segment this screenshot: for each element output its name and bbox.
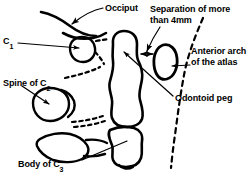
prevertebral-dashes-mid [65, 67, 100, 78]
label-odontoid-peg: Odontoid peg [175, 93, 232, 103]
label-separation-line2: than 4mm [150, 15, 192, 25]
leader-odontoid [124, 52, 173, 96]
leader-anterior-arch [172, 65, 190, 66]
cervical-spine-illustration [0, 0, 249, 181]
label-anterior-arch-line1: Anterior arch [191, 46, 246, 56]
label-c1: C1 [3, 36, 13, 46]
c2-spinous-process [33, 88, 75, 121]
label-spine-c2-subscript: 2 [47, 85, 51, 92]
label-anterior-arch: Anterior arch of the atlas [191, 46, 249, 68]
label-body-c3-text: Body of C [18, 159, 60, 169]
label-separation-line1: Separation of more [150, 4, 230, 14]
label-spine-c2: Spine of C2 [3, 78, 50, 88]
label-body-c3: Body of C3 [18, 159, 63, 169]
label-odontoid-peg-text: Odontoid peg [175, 93, 232, 103]
label-occiput-text: Occiput [105, 3, 138, 13]
prevertebral-dashes-lower [72, 116, 105, 127]
occiput-outline [41, 12, 106, 39]
figure-canvas: Occiput C1 Separation of more than 4mm A… [0, 0, 249, 181]
label-spine-c2-text: Spine of C [3, 78, 47, 88]
label-occiput: Occiput [105, 3, 138, 13]
anterior-arch-of-atlas [154, 45, 177, 80]
prevertebral-dashes-upper [95, 39, 108, 64]
leader-occiput [72, 8, 103, 24]
label-separation: Separation of more than 4mm [150, 4, 246, 26]
label-body-c3-subscript: 3 [60, 166, 64, 173]
c3-spinous-process [37, 133, 107, 162]
odontoid-peg-and-c2-body [109, 31, 143, 127]
label-c1-subscript: 1 [9, 43, 13, 50]
c1-posterior-arch [70, 37, 95, 62]
label-anterior-arch-line2: of the atlas [191, 57, 237, 67]
c3-vertebral-body [109, 127, 142, 169]
